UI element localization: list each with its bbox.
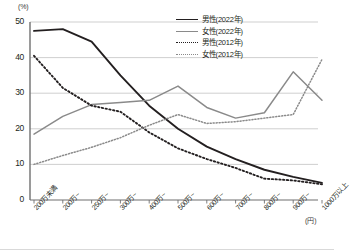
legend-label: 女性(2022年) <box>202 26 243 38</box>
y-tick-label: 0 <box>4 194 24 204</box>
y-tick-label: 20 <box>4 123 24 133</box>
legend-swatch-male-2022 <box>176 15 198 24</box>
x-axis-unit-label: (円) <box>305 215 317 225</box>
plot-svg <box>30 22 318 200</box>
legend-item: 男性(2022年) <box>176 14 243 26</box>
bottom-divider <box>0 249 334 250</box>
x-tick-label: 1000万以上 <box>319 180 350 212</box>
legend-label: 女性(2012年) <box>202 49 243 61</box>
axis-lines <box>30 22 318 200</box>
y-axis-unit-label: (%) <box>18 3 28 10</box>
y-tick-label: 50 <box>4 16 24 26</box>
y-tick-label: 40 <box>4 52 24 62</box>
legend-label: 男性(2022年) <box>202 14 243 26</box>
series-line <box>34 56 322 185</box>
legend-swatch-male-2012 <box>176 38 198 47</box>
legend-item: 女性(2022年) <box>176 26 243 38</box>
legend-swatch-female-2022 <box>176 27 198 36</box>
legend-item: 女性(2012年) <box>176 49 243 61</box>
legend-swatch-female-2012 <box>176 50 198 59</box>
legend-label: 男性(2012年) <box>202 37 243 49</box>
legend-item: 男性(2012年) <box>176 37 243 49</box>
y-tick-label: 30 <box>4 87 24 97</box>
series-line <box>34 72 322 134</box>
y-tick-label: 10 <box>4 158 24 168</box>
chart-legend: 男性(2022年) 女性(2022年) 男性(2012年) 女性(2012年) <box>176 14 243 60</box>
plot-area <box>30 22 318 200</box>
